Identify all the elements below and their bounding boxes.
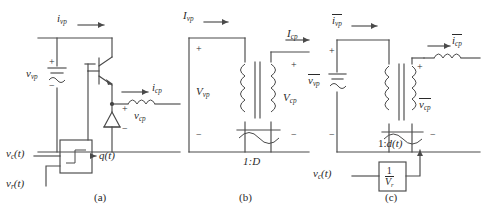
- panel-b-output-plus: +: [291, 60, 297, 70]
- panel-a-ramp-input-label: vr(t): [6, 178, 24, 191]
- panel-a-input-current-label: ivp: [57, 13, 67, 26]
- panel-a-input-plus: +: [49, 57, 55, 67]
- panel-c-input-current-label: ivp: [332, 14, 342, 29]
- panel-c-input-minus: −: [329, 130, 335, 140]
- panel-a-control-input-label: vc(t): [6, 148, 25, 161]
- panel-a-output-voltage-label: vcp: [134, 110, 146, 123]
- panel-a-input-voltage-label: vvp: [26, 68, 38, 81]
- panel-b-input-voltage-label: Vvp: [196, 86, 210, 99]
- panel-a-output-plus: +: [122, 104, 128, 114]
- panel-a-output-minus: −: [122, 124, 128, 134]
- panel-b-turns-ratio-label: 1:D: [243, 156, 260, 167]
- panel-c-output-voltage-label: vcp: [419, 98, 431, 113]
- panel-c-caption: (c): [385, 192, 397, 203]
- panel-c-output-current-label: icp: [452, 34, 462, 49]
- panel-c-control-input-label: vc(t): [313, 168, 332, 181]
- panel-b-input-plus: +: [196, 44, 202, 54]
- panel-b-output-minus: −: [291, 130, 297, 140]
- panel-a-gate-signal-label: q(t): [99, 150, 115, 161]
- panel-a-artwork: [34, 22, 180, 186]
- panel-c-turns-ratio-label: 1:d(t): [378, 138, 402, 149]
- panel-a-caption: (a): [94, 192, 106, 203]
- panel-c-output-plus: +: [417, 62, 423, 72]
- circuit-artwork: [0, 0, 488, 217]
- panel-b-input-minus: −: [196, 130, 202, 140]
- panel-b-output-current-label: Icp: [287, 28, 298, 41]
- panel-b-output-voltage-label: Vcp: [283, 92, 297, 105]
- panel-c-gain-block-label: 1 Vr: [385, 166, 394, 189]
- panel-b-input-current-label: Ivp: [183, 10, 194, 23]
- figure-canvas: ivp vvp + − icp vcp + − q(t) vc(t) vr(t)…: [0, 0, 488, 217]
- panel-a-input-minus: −: [49, 81, 55, 91]
- panel-c-output-minus: −: [430, 130, 436, 140]
- panel-c-input-voltage-label: vvp: [308, 74, 320, 89]
- panel-c-input-plus: +: [329, 46, 335, 56]
- panel-a-output-current-label: icp: [152, 82, 162, 95]
- panel-b-caption: (b): [239, 192, 252, 203]
